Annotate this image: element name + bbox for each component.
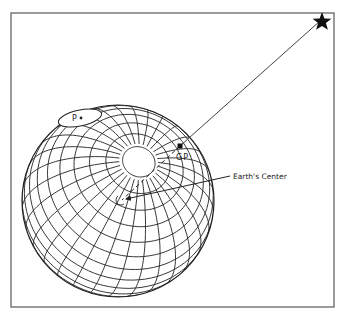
earth-center-label: Earth's Center bbox=[233, 172, 288, 181]
gp-label: GP bbox=[176, 153, 189, 162]
celestial-geometry-diagram: P GP Earth's Center bbox=[0, 0, 344, 319]
earth-globe bbox=[22, 105, 214, 297]
pole-label: P bbox=[72, 114, 77, 123]
star-icon bbox=[313, 12, 332, 30]
star-sight-line bbox=[180, 21, 320, 146]
gp-marker bbox=[178, 144, 183, 149]
